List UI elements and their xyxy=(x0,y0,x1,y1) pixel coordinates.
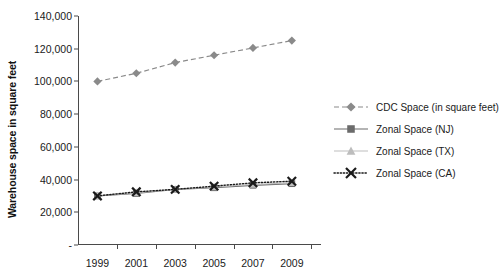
legend-marker-square-icon xyxy=(333,121,369,137)
legend-marker-triangle-icon xyxy=(333,143,369,159)
data-point-diamond xyxy=(93,77,101,85)
series-1 xyxy=(94,180,295,199)
data-point-diamond xyxy=(171,59,179,67)
x-tick-label: 2001 xyxy=(125,257,148,269)
y-tick-label: 100,000 xyxy=(34,75,78,87)
y-tick-label: 140,000 xyxy=(34,10,78,22)
legend-label: Zonal Space (NJ) xyxy=(376,124,454,135)
series-0 xyxy=(93,36,296,85)
x-tick-mark xyxy=(272,245,273,249)
data-point-diamond xyxy=(132,69,140,77)
x-tick-label: 2009 xyxy=(280,257,303,269)
series-layer xyxy=(78,16,321,245)
series-line xyxy=(97,184,291,196)
legend-marker-diamond-icon xyxy=(333,99,369,115)
data-point-diamond xyxy=(249,44,257,52)
legend-item[interactable]: Zonal Space (TX) xyxy=(333,140,493,162)
data-point-diamond xyxy=(346,102,355,111)
y-tick-label: 120,000 xyxy=(34,43,78,55)
legend-item[interactable]: Zonal Space (NJ) xyxy=(333,118,493,140)
x-tick-label: 2003 xyxy=(164,257,187,269)
data-point-square xyxy=(347,125,355,133)
y-tick-label: 20,000 xyxy=(40,206,78,218)
x-tick-mark xyxy=(311,245,312,249)
legend-item[interactable]: Zonal Space (CA) xyxy=(333,162,493,184)
x-tick-label: 2007 xyxy=(241,257,264,269)
x-tick-mark xyxy=(117,245,118,249)
plot-area: -20,00040,00060,00080,000100,000120,0001… xyxy=(78,16,321,245)
data-point-diamond xyxy=(288,36,296,44)
data-point-diamond xyxy=(210,51,218,59)
legend-marker-x-icon xyxy=(333,165,369,181)
y-tick-label: 60,000 xyxy=(40,141,78,153)
x-tick-label: 1999 xyxy=(86,257,109,269)
y-tick-label: 40,000 xyxy=(40,174,78,186)
legend-label: Zonal Space (TX) xyxy=(376,146,454,157)
y-axis-title: Warehouse space in square feet xyxy=(2,0,22,279)
x-tick-mark xyxy=(156,245,157,249)
legend-item[interactable]: CDC Space (in square feet) xyxy=(333,96,493,118)
chart-legend: CDC Space (in square feet)Zonal Space (N… xyxy=(333,96,493,184)
x-tick-label: 2005 xyxy=(202,257,225,269)
y-tick-label: 80,000 xyxy=(40,108,78,120)
legend-label: Zonal Space (CA) xyxy=(376,168,455,179)
x-tick-mark xyxy=(234,245,235,249)
legend-label: CDC Space (in square feet) xyxy=(376,102,499,113)
x-tick-mark xyxy=(195,245,196,249)
series-line xyxy=(97,41,291,82)
